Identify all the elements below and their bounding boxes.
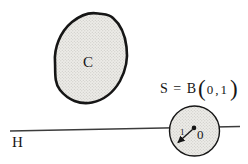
ball-label-close-paren: ) (230, 77, 238, 100)
radius-label: 1 (180, 127, 185, 137)
separating-hyperplane-diagram: C H 0 1 S = B ( 0,1 ) (0, 0, 248, 164)
ball-label-prefix: S = B (160, 81, 197, 97)
center-label: 0 (197, 127, 204, 142)
unit-ball-shape (170, 106, 220, 156)
ball-label-args: 0,1 (207, 82, 229, 98)
ball-label-open-paren: ( (198, 77, 206, 100)
hyperplane-label: H (12, 134, 23, 150)
convex-set-label: C (83, 54, 93, 70)
ball-label: S = B ( 0,1 ) (160, 76, 239, 102)
